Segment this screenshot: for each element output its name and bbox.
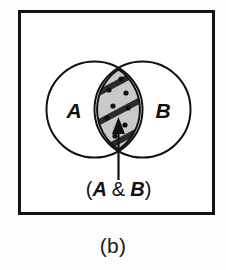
intersection-label: (A&B) [86,178,152,200]
intersection-label-operand-b: B [130,178,144,200]
intersection-label-operand-a: A [91,178,106,200]
set-b-label: B [155,99,170,122]
venn-diagram-svg: A B (A&B) [21,13,212,212]
venn-diagram-panel: A B (A&B) [18,10,215,215]
set-a-label: A [65,99,81,122]
intersection-label-operator: & [112,178,126,200]
figure-root: A B (A&B) (b) [0,0,226,270]
figure-caption: (b) [0,234,226,258]
